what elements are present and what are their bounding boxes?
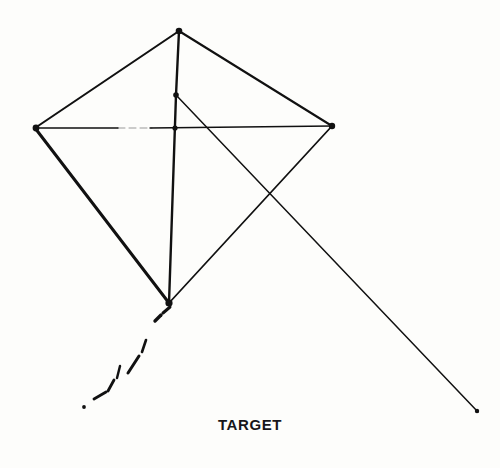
tail-segment bbox=[142, 340, 146, 352]
kite-spars bbox=[36, 31, 332, 303]
tail-segment bbox=[163, 307, 170, 313]
bridle-node-marker bbox=[173, 92, 179, 98]
spar-crossing-node bbox=[172, 125, 177, 130]
left-wingtip-node bbox=[33, 125, 40, 132]
kite-tail-group bbox=[82, 307, 170, 409]
tail-segment bbox=[117, 366, 120, 378]
tail-segment bbox=[155, 315, 161, 321]
tail-dot bbox=[82, 405, 86, 409]
figure-page: TARGET bbox=[0, 0, 500, 468]
kite-diagram bbox=[0, 0, 500, 468]
edge-right-wingtip-to-bottom-tip bbox=[169, 126, 332, 303]
tail-segment bbox=[94, 392, 106, 399]
tail-segment bbox=[128, 356, 139, 373]
kite-frame-edges bbox=[35, 31, 332, 303]
right-wingtip-node bbox=[329, 123, 335, 129]
tail-segment bbox=[108, 380, 114, 391]
flying-line-end-node bbox=[475, 409, 479, 413]
flying-line-group bbox=[176, 95, 478, 412]
edge-apex-to-right-wingtip bbox=[179, 31, 332, 126]
flying-line bbox=[176, 95, 478, 412]
vertical-spar bbox=[176, 31, 179, 95]
edge-left-wingtip-to-bottom-tip bbox=[35, 128, 169, 303]
edge-apex-to-left-wingtip bbox=[35, 31, 179, 128]
figure-caption: TARGET bbox=[0, 416, 500, 433]
apex-node bbox=[176, 28, 183, 35]
bottom-tip-node bbox=[165, 299, 172, 306]
